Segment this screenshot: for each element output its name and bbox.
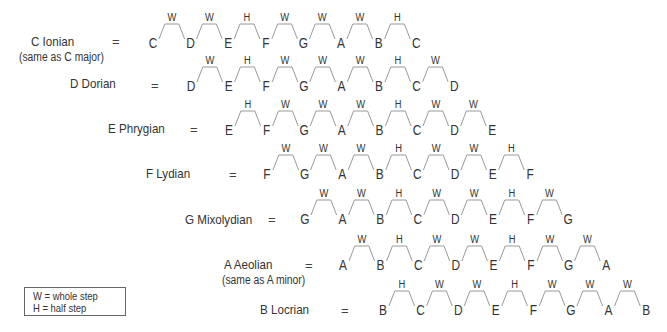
mode-row-e-phrygian: EHFWGWAWBHCWDWE (225, 98, 496, 138)
note-label: E (225, 122, 233, 138)
half-step-label: H (395, 142, 402, 154)
step-connector-line (387, 246, 413, 261)
legend-box: W = whole step H = half step (24, 287, 126, 316)
half-step-label: H (395, 98, 402, 110)
note-label: A (339, 211, 347, 227)
note-label: E (225, 78, 233, 94)
step-pattern-graphic: CWDWEHFWGWAWBHCDWEHFWGWAWBHCWDEHFWGWAWBH… (0, 0, 667, 332)
step-connector-line (310, 67, 336, 82)
step-connector-line (197, 24, 223, 39)
note-label: C (413, 122, 422, 138)
whole-step-label: W (281, 142, 290, 154)
step-connector-line (424, 246, 450, 261)
whole-step-label: W (357, 233, 366, 245)
note-label: D (450, 122, 459, 138)
legend-half-step: H = half step (33, 302, 116, 314)
mode-row-g-mixolydian: GWAWBHCWDWEHFWG (300, 187, 572, 227)
half-step-label: H (508, 187, 515, 199)
step-connector-line (311, 155, 337, 170)
whole-step-label: W (545, 233, 554, 245)
step-connector-line (537, 246, 563, 261)
whole-step-label: W (431, 54, 440, 66)
mode-row-c-ionian: CWDWEHFWGWAWBHC (149, 11, 421, 51)
step-connector-line (386, 155, 412, 170)
step-connector-line (461, 155, 487, 170)
note-label: B (377, 257, 385, 273)
note-label: A (338, 122, 346, 138)
whole-step-label: W (470, 233, 479, 245)
step-connector-line (464, 291, 490, 306)
whole-step-label: W (585, 278, 594, 290)
note-label: F (527, 257, 534, 273)
note-label: G (564, 257, 573, 273)
note-label: F (263, 166, 270, 182)
whole-step-label: W (318, 54, 327, 66)
note-label: A (339, 257, 347, 273)
note-label: F (527, 166, 534, 182)
note-label: D (451, 211, 460, 227)
note-label: G (566, 302, 575, 318)
note-label: D (451, 257, 460, 273)
step-connector-line (197, 67, 223, 82)
note-label: C (149, 35, 158, 51)
step-connector-line (159, 24, 185, 39)
whole-step-label: W (356, 98, 365, 110)
note-label: B (375, 35, 383, 51)
step-connector-line (385, 111, 411, 126)
note-label: G (300, 122, 309, 138)
step-connector-line (385, 24, 411, 39)
mode-row-d-dorian: DWEHFWGWAWBHCWD (187, 54, 459, 94)
note-label: C (413, 211, 422, 227)
whole-step-label: W (470, 187, 479, 199)
whole-step-label: W (167, 11, 176, 23)
note-label: E (224, 35, 232, 51)
whole-step-label: W (469, 142, 478, 154)
note-label: F (530, 302, 537, 318)
step-connector-line (347, 67, 373, 82)
note-label: B (376, 211, 384, 227)
step-connector-line (235, 67, 261, 82)
step-connector-line (537, 200, 563, 215)
step-connector-line (499, 155, 525, 170)
step-connector-line (461, 200, 487, 215)
whole-step-label: W (545, 187, 554, 199)
step-connector-line (349, 200, 375, 215)
note-label: A (605, 302, 613, 318)
step-connector-line (272, 24, 298, 39)
whole-step-label: W (319, 187, 328, 199)
whole-step-label: W (281, 98, 290, 110)
note-label: F (263, 78, 270, 94)
whole-step-label: W (318, 11, 327, 23)
note-label: D (454, 302, 463, 318)
step-connector-line (502, 291, 528, 306)
legend-whole-step: W = whole step (33, 290, 116, 302)
whole-step-label: W (432, 142, 441, 154)
whole-step-label: W (433, 233, 442, 245)
step-connector-line (273, 111, 299, 126)
step-connector-line (461, 111, 487, 126)
whole-step-label: W (623, 278, 632, 290)
step-connector-line (499, 200, 525, 215)
note-label: G (300, 211, 309, 227)
note-label: A (337, 78, 345, 94)
step-connector-line (615, 291, 641, 306)
half-step-label: H (396, 233, 403, 245)
note-label: C (416, 302, 425, 318)
note-label: E (489, 211, 497, 227)
whole-step-label: W (473, 278, 482, 290)
note-label: F (527, 211, 534, 227)
mode-row-b-locrian: BHCWDWEHFWGWAWB (379, 278, 650, 318)
note-label: G (299, 78, 308, 94)
half-step-label: H (509, 233, 516, 245)
half-step-label: H (394, 11, 401, 23)
whole-step-label: W (431, 98, 440, 110)
step-connector-line (310, 111, 336, 126)
note-label: F (262, 35, 269, 51)
whole-step-label: W (357, 187, 366, 199)
whole-step-label: W (319, 98, 328, 110)
note-label: E (489, 257, 497, 273)
step-connector-line (575, 246, 601, 261)
note-label: B (642, 302, 650, 318)
step-connector-line (427, 291, 453, 306)
step-connector-line (348, 155, 374, 170)
